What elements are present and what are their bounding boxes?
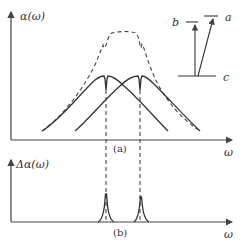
- panel-b-x-label: ω: [224, 228, 233, 241]
- panel-a-caption: (a): [113, 143, 127, 154]
- level-a-label: a: [225, 11, 232, 24]
- panel-a-sum-curve: [42, 32, 200, 132]
- diagram: α(ω) ω (a) b a c Δα(ω) ω (b): [0, 0, 240, 244]
- panel-a-x-label: ω: [224, 146, 233, 159]
- panel-b-y-label: Δα(ω): [15, 158, 49, 171]
- panel-a-right-peak: [75, 76, 200, 131]
- panel-a-left-peak: [42, 76, 168, 131]
- level-b-label: b: [172, 16, 179, 29]
- transition-c-a-arrow: [198, 19, 213, 76]
- panel-a-y-label: α(ω): [20, 10, 45, 23]
- panel-b-caption: (b): [113, 227, 127, 238]
- panel-b-right-peak: [134, 197, 149, 222]
- level-c-label: c: [223, 71, 229, 84]
